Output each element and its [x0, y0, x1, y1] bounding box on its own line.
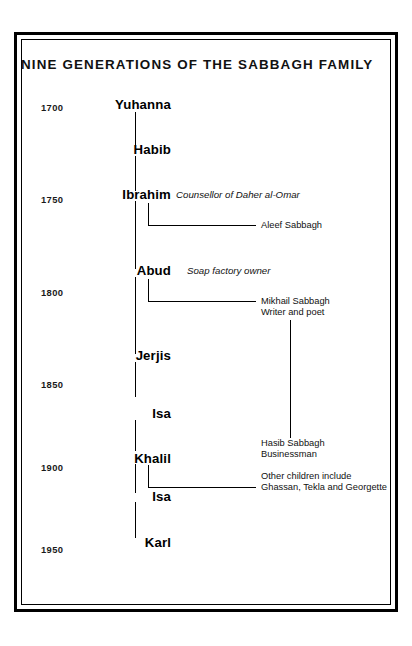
lineage-line-jerjis-isa — [135, 362, 136, 397]
branch-note-mikhail-role: Writer and poet — [261, 307, 330, 318]
year-label-1800: 1800 — [41, 287, 63, 298]
branch-line-khalil-horizontal — [148, 487, 256, 488]
branch-note-mikhail-name: Mikhail Sabbagh — [261, 296, 330, 307]
generation-role-abud: Soap factory owner — [187, 265, 270, 276]
generation-name-yuhanna: Yuhanna — [51, 97, 171, 112]
lineage-line-ibrahim-abud — [135, 201, 136, 269]
generation-name-habib: Habib — [51, 142, 171, 157]
branch-note-mikhail: Mikhail Sabbagh Writer and poet — [261, 296, 330, 318]
generation-name-ibrahim: Ibrahim — [51, 187, 171, 202]
generation-name-isa-2: Isa — [51, 489, 171, 504]
generation-role-ibrahim: Counsellor of Daher al-Omar — [176, 189, 300, 200]
branch-line-abud-vertical — [148, 279, 149, 302]
branch-note-aleef-line-1: Aleef Sabbagh — [261, 220, 322, 231]
lineage-line-abud-jerjis — [135, 277, 136, 354]
branch-note-hasib-name: Hasib Sabbagh — [261, 438, 325, 449]
generation-name-jerjis: Jerjis — [51, 348, 171, 363]
branch-line-ibrahim-horizontal — [148, 225, 256, 226]
branch-note-other-children-line-1: Other children include — [261, 471, 387, 482]
branch-line-khalil-vertical — [148, 465, 149, 488]
branch-line-abud-horizontal — [148, 301, 256, 302]
lineage-line-isa-karl — [135, 502, 136, 538]
generation-name-karl: Karl — [51, 535, 171, 550]
branch-line-ibrahim-vertical — [148, 203, 149, 226]
generation-name-abud: Abud — [51, 263, 171, 278]
lineage-line-isa-khalil — [135, 420, 136, 451]
generation-name-khalil: Khalil — [51, 451, 171, 466]
generation-name-isa-1: Isa — [51, 406, 171, 421]
branch-note-hasib-role: Businessman — [261, 449, 325, 460]
branch-note-other-children: Other children include Ghassan, Tekla an… — [261, 471, 387, 493]
branch-note-hasib: Hasib Sabbagh Businessman — [261, 438, 325, 460]
genealogy-chart: NINE GENERATIONS OF THE SABBAGH FAMILY 1… — [21, 39, 391, 605]
branch-line-mikhail-to-hasib — [290, 320, 291, 438]
branch-note-other-children-line-2: Ghassan, Tekla and Georgette — [261, 482, 387, 493]
page-title: NINE GENERATIONS OF THE SABBAGH FAMILY — [21, 57, 373, 72]
year-label-1850: 1850 — [41, 379, 63, 390]
branch-note-aleef: Aleef Sabbagh — [261, 220, 322, 231]
